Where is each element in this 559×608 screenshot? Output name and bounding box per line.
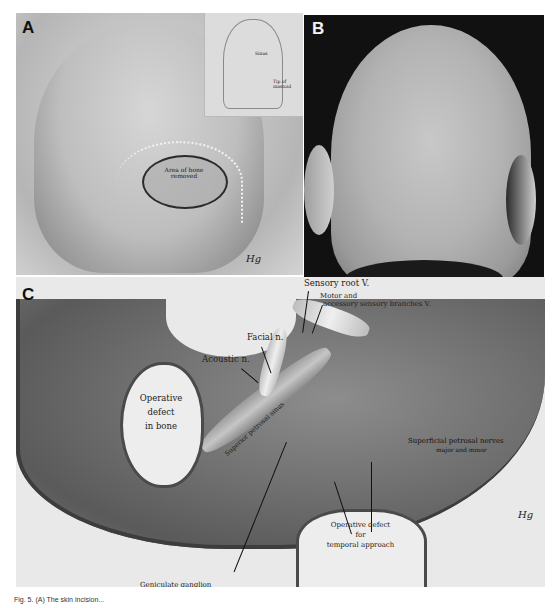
right-ear	[506, 155, 536, 245]
panel-b-head-photo	[304, 15, 544, 278]
label-temporal-defect-3: temporal approach	[308, 542, 413, 549]
label-sensory-root: Sensory root V.	[304, 279, 369, 288]
label-defect-bone-3: in bone	[137, 422, 185, 431]
shaved-head	[331, 25, 531, 278]
label-temporal-defect-1: Operative defect	[308, 522, 413, 529]
label-temporal-defect-2: for	[308, 532, 413, 539]
bone-removed-outline	[142, 155, 228, 209]
label-defect-bone-2: defect	[137, 408, 185, 417]
label-superficial-petrosal-2: major and minor	[436, 447, 487, 453]
inset-label-tip-of-mastoid: Tip of mastoid	[273, 80, 299, 89]
label-area-bone-removed: Area of bone removed	[156, 167, 212, 180]
left-ear	[304, 145, 334, 235]
inset-head-diagram: Sinus Tip of mastoid	[204, 13, 303, 117]
artist-signature-a: Hg	[246, 253, 261, 264]
label-acoustic-nerve: Acoustic n.	[202, 355, 250, 364]
panel-letter-c: C	[22, 285, 34, 305]
label-motor-line2: accessory sensory branches V.	[323, 301, 431, 308]
inset-label-sinus: Sinus	[255, 52, 268, 57]
inset-head-outline	[223, 19, 283, 109]
label-facial-nerve: Facial n.	[247, 333, 284, 342]
label-defect-bone-1: Operative	[137, 394, 185, 403]
label-superficial-petrosal-1: Superficial petrosal nerves	[408, 438, 504, 445]
label-geniculate-ganglion: Geniculate ganglion	[140, 582, 211, 587]
panel-c-fossa-drawing: Sensory root V. Motor and accessory sens…	[16, 277, 545, 587]
panel-letter-b: B	[312, 19, 324, 39]
panel-a-skull-drawing: Area of bone removed Sinus Tip of mastoi…	[16, 13, 303, 275]
figure-caption: Fig. 5. (A) The skin incision...	[14, 596, 104, 603]
artist-signature-c: Hg	[518, 509, 533, 520]
panel-letter-a: A	[22, 18, 34, 38]
